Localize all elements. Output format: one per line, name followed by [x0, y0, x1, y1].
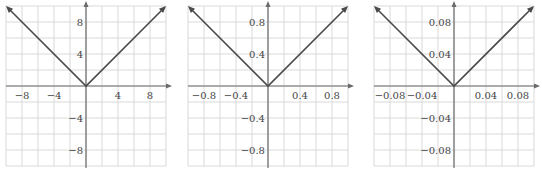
x-tick-label: −0.04	[407, 90, 438, 101]
y-tick-label: −4	[68, 113, 83, 124]
graph-panel-3: −0.08−0.040.040.080.080.04−0.04−0.08	[368, 0, 542, 179]
x-tick-label: 0.8	[324, 90, 340, 101]
x-tick-label: −0.4	[224, 90, 248, 101]
x-tick-label: 4	[115, 90, 121, 101]
y-tick-label: 4	[77, 49, 83, 60]
y-tick-label: 0.8	[249, 17, 265, 28]
y-tick-label: −8	[68, 145, 83, 156]
y-tick-label: −0.4	[241, 113, 265, 124]
axes	[374, 1, 540, 168]
x-axis-arrow-icon	[348, 84, 354, 89]
x-tick-label: 8	[147, 90, 153, 101]
y-tick-label: −0.08	[420, 145, 451, 156]
x-tick-label: 0.08	[507, 90, 529, 101]
graph-panel-1: −8−44884−4−8	[0, 0, 174, 179]
y-axis-arrow-icon	[266, 1, 271, 7]
y-tick-label: 0.04	[429, 49, 451, 60]
graph-svg: −0.8−0.40.40.80.80.4−0.4−0.8	[182, 0, 356, 179]
y-axis-arrow-icon	[84, 1, 89, 7]
y-tick-label: 8	[77, 17, 83, 28]
x-tick-label: 0.4	[292, 90, 308, 101]
axes	[6, 1, 172, 168]
graph-panel-2: −0.8−0.40.40.80.80.4−0.4−0.8	[182, 0, 356, 179]
x-axis-arrow-icon	[534, 84, 540, 89]
x-tick-label: −0.8	[192, 90, 216, 101]
x-tick-label: −8	[15, 90, 30, 101]
y-tick-label: −0.04	[420, 113, 451, 124]
axes	[188, 1, 354, 168]
y-tick-label: −0.8	[241, 145, 265, 156]
x-tick-label: 0.04	[475, 90, 497, 101]
x-axis-arrow-icon	[166, 84, 172, 89]
x-tick-label: −4	[47, 90, 62, 101]
y-axis-arrow-icon	[452, 1, 457, 7]
x-tick-label: −0.08	[375, 90, 406, 101]
graph-svg: −8−44884−4−8	[0, 0, 174, 179]
y-tick-label: 0.08	[429, 17, 451, 28]
graph-svg: −0.08−0.040.040.080.080.04−0.04−0.08	[368, 0, 542, 179]
y-tick-label: 0.4	[249, 49, 265, 60]
